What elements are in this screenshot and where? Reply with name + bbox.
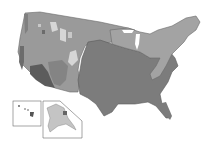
mountain-patch-6: [38, 24, 41, 27]
lake-superior: [122, 30, 134, 33]
hawaii-inset: [13, 101, 41, 126]
us-map: [0, 0, 209, 145]
mountain-patch-2: [60, 28, 66, 42]
alaska-inset: [43, 101, 82, 138]
mountain-patch-4: [68, 32, 72, 38]
mountain-patch-5: [42, 30, 45, 34]
